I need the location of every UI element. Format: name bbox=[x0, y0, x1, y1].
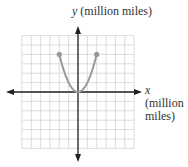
x-axis-right-arrow-icon bbox=[134, 89, 142, 95]
endpoint-dot bbox=[57, 52, 62, 57]
x-variable: x bbox=[145, 83, 150, 97]
endpoint-dot bbox=[94, 52, 99, 57]
x-axis-label: x (million miles) bbox=[145, 84, 184, 123]
axes bbox=[6, 26, 142, 162]
x-axis-left-arrow-icon bbox=[6, 89, 14, 95]
y-axis-up-arrow-icon bbox=[75, 26, 81, 34]
y-variable: y bbox=[72, 4, 77, 18]
y-axis-label: y (million miles) bbox=[72, 5, 152, 18]
y-axis-down-arrow-icon bbox=[75, 154, 81, 162]
x-unit-line1: (million bbox=[145, 96, 184, 110]
x-unit-line2: miles) bbox=[145, 109, 175, 123]
y-unit: (million miles) bbox=[80, 4, 152, 18]
